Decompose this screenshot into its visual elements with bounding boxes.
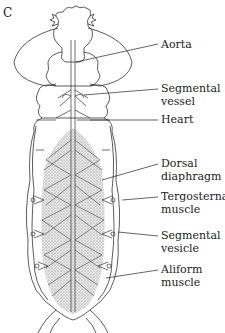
leader-dorsal-diaphragm — [102, 164, 158, 180]
label-aliform-muscle: Aliform muscle — [161, 263, 202, 289]
segmental-vessel — [62, 94, 84, 98]
leader-aliform-muscle — [106, 270, 158, 278]
leader-tergosternal-muscle — [122, 197, 158, 200]
label-aorta: Aorta — [161, 38, 192, 51]
leader-segmental-vessel — [84, 89, 158, 95]
thorax-outline — [46, 52, 100, 86]
leader-segmental-vesicle — [118, 232, 158, 236]
head-outline — [54, 6, 93, 62]
label-segmental-vesicle: Segmental vesicle — [161, 229, 221, 255]
label-tergosternal-muscle: Tergosternal muscle — [161, 190, 225, 216]
label-dorsal-diaphragm: Dorsal diaphragm — [161, 157, 222, 183]
label-segmental-vessel: Segmental vessel — [161, 82, 221, 108]
label-heart: Heart — [161, 113, 193, 126]
right-wing-lobe — [88, 28, 132, 86]
left-wing-lobe — [14, 28, 58, 86]
panel-letter: C — [3, 6, 12, 20]
